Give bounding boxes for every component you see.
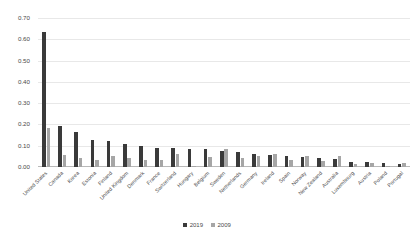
bar-group — [70, 18, 86, 167]
bar-2009 — [111, 156, 115, 167]
bar-2009 — [354, 164, 358, 167]
legend-swatch-icon — [211, 223, 215, 227]
y-axis-labels: 0.700.600.500.400.300.200.100.00 — [0, 0, 34, 236]
bar-2019 — [42, 32, 46, 167]
bar-2019 — [123, 144, 127, 167]
bar-2019 — [204, 149, 208, 167]
bar-2019 — [188, 149, 192, 167]
legend-item[interactable]: 2009 — [211, 222, 231, 228]
legend-item[interactable]: 2019 — [183, 222, 203, 228]
y-axis-tick-label: 0.50 — [0, 58, 30, 64]
bar-2009 — [257, 156, 261, 167]
bar-2019 — [139, 146, 143, 167]
y-axis-tick-label: 0.10 — [0, 143, 30, 149]
bar-2009 — [160, 160, 164, 167]
bar-2019 — [398, 164, 402, 167]
bar-2019 — [171, 148, 175, 167]
bar-2019 — [285, 156, 289, 167]
bar-chart: 0.700.600.500.400.300.200.100.00 United … — [0, 0, 414, 236]
bar-2009 — [402, 163, 406, 167]
bar-2009 — [63, 155, 67, 167]
bar-2019 — [317, 158, 321, 167]
bar-group — [232, 18, 248, 167]
x-axis-tick-label: Spain — [277, 170, 291, 184]
bar-group — [345, 18, 361, 167]
bar-group — [378, 18, 394, 167]
bar-2009 — [386, 166, 390, 167]
bar-2019 — [268, 155, 272, 167]
bar-group — [167, 18, 183, 167]
y-axis-tick-label: 0.00 — [0, 164, 30, 170]
bar-group — [329, 18, 345, 167]
bar-group — [216, 18, 232, 167]
bar-group — [119, 18, 135, 167]
bar-group — [394, 18, 410, 167]
bar-2019 — [382, 163, 386, 167]
bar-2009 — [95, 160, 99, 167]
y-axis-tick-label: 0.70 — [0, 15, 30, 21]
bar-group — [281, 18, 297, 167]
bar-2019 — [91, 140, 95, 167]
bar-2009 — [208, 157, 212, 167]
x-axis-tick-label: Hungary — [175, 170, 193, 188]
x-axis-tick-label: Canada — [47, 170, 64, 187]
x-axis-category-labels: United StatesCanadaKoreaEstoniaFinlandUn… — [38, 168, 410, 220]
bar-2009 — [321, 161, 325, 167]
y-axis-tick-label: 0.60 — [0, 36, 30, 42]
bar-2009 — [273, 154, 277, 167]
legend-label: 2019 — [190, 222, 203, 228]
bar-2009 — [176, 154, 180, 167]
bar-2009 — [144, 160, 148, 167]
bar-group — [313, 18, 329, 167]
bar-2009 — [305, 156, 309, 167]
bar-2019 — [252, 154, 256, 167]
legend-label: 2009 — [218, 222, 231, 228]
bar-2009 — [241, 158, 245, 167]
x-axis-tick-label: Korea — [66, 170, 80, 184]
bar-2019 — [74, 132, 78, 167]
x-axis-tick-label: Belgium — [192, 170, 210, 188]
bar-2019 — [220, 151, 224, 167]
bar-group — [297, 18, 313, 167]
bar-2009 — [338, 156, 342, 167]
bar-group — [135, 18, 151, 167]
y-axis-tick-label: 0.20 — [0, 121, 30, 127]
bar-group — [184, 18, 200, 167]
bar-2009 — [370, 163, 374, 167]
bar-2019 — [236, 152, 240, 167]
legend-swatch-icon — [183, 223, 187, 227]
bar-group — [103, 18, 119, 167]
chart-legend: 20192009 — [0, 222, 414, 228]
bar-2019 — [58, 126, 62, 167]
bar-group — [361, 18, 377, 167]
bar-group — [87, 18, 103, 167]
bar-group — [151, 18, 167, 167]
bar-group — [248, 18, 264, 167]
bar-2019 — [349, 162, 353, 167]
bar-2019 — [365, 162, 369, 167]
bar-2009 — [47, 128, 51, 167]
bar-2009 — [192, 166, 196, 167]
x-axis-tick-label: Portugal — [386, 170, 404, 188]
y-axis-tick-label: 0.30 — [0, 100, 30, 106]
bar-2009 — [79, 158, 83, 167]
y-axis-tick-label: 0.40 — [0, 79, 30, 85]
bar-groups — [38, 18, 410, 167]
bar-group — [200, 18, 216, 167]
bar-2019 — [301, 157, 305, 167]
bar-2019 — [155, 148, 159, 167]
bar-group — [264, 18, 280, 167]
bar-2009 — [224, 149, 228, 167]
bar-group — [38, 18, 54, 167]
x-axis-tick-label: Austria — [356, 170, 372, 186]
bar-2019 — [333, 159, 337, 168]
bar-2009 — [289, 160, 293, 167]
x-axis-tick-label: Estonia — [80, 170, 97, 187]
x-axis-tick-label: Ireland — [259, 170, 275, 186]
bar-2019 — [107, 141, 111, 167]
bar-2009 — [127, 158, 131, 167]
bar-group — [54, 18, 70, 167]
